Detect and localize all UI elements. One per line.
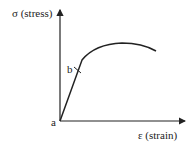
stress-strain-diagram (0, 0, 195, 148)
yield-point-label: b (67, 64, 73, 75)
x-axis-label: ε (strain) (138, 130, 177, 141)
origin-point-label: a (51, 117, 56, 128)
y-axis-label: σ (stress) (12, 8, 52, 19)
stress-strain-curve (60, 43, 156, 121)
